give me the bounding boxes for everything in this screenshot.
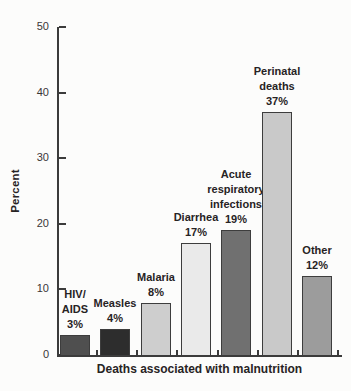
x-tick-mark-5 (257, 350, 259, 355)
y-tick-label-10: 10 (0, 282, 49, 295)
bar-label-acute-respiratory-infections: Acuterespiratoryinfections19% (207, 167, 264, 227)
bar-label-perinatal-deaths: Perinataldeaths37% (254, 64, 300, 109)
bar-label-other: Other12% (302, 243, 331, 273)
bar-label-line: 37% (254, 94, 300, 109)
bar-perinatal-deaths (262, 112, 292, 355)
bar-hiv-aids (60, 335, 90, 355)
y-tick-label-40: 40 (0, 86, 49, 99)
bar-diarrhea (181, 243, 211, 355)
x-tick-mark-2 (136, 350, 138, 355)
y-axis-title: Percent (9, 169, 21, 213)
y-tick-label-20: 20 (0, 217, 49, 230)
y-tick-mark-30 (59, 157, 66, 159)
bar-label-line: infections (207, 197, 264, 212)
y-tick-mark-50 (59, 26, 66, 28)
x-tick-mark-6 (297, 350, 299, 355)
bar-measles (100, 329, 130, 355)
bar-label-line: Malaria (137, 270, 175, 285)
bar-label-line: 17% (174, 225, 219, 240)
bar-label-measles: Measles4% (94, 296, 137, 326)
y-tick-label-50: 50 (0, 20, 49, 33)
bar-label-line: 8% (137, 285, 175, 300)
bar-other (302, 276, 332, 355)
bar-label-line: 4% (94, 311, 137, 326)
bar-label-line: AIDS (62, 302, 88, 317)
bar-label-line: Acute (207, 167, 264, 182)
x-tick-mark-1 (96, 350, 98, 355)
bar-label-line: respiratory (207, 182, 264, 197)
bar-acute-respiratory-infections (221, 230, 251, 355)
y-tick-mark-40 (59, 92, 66, 94)
bar-label-line: Perinatal (254, 64, 300, 79)
bar-label-line: 3% (62, 317, 88, 332)
bar-malaria (141, 303, 171, 355)
x-axis-title: Deaths associated with malnutrition (57, 362, 342, 376)
x-tick-mark-3 (176, 350, 178, 355)
bar-label-line: Measles (94, 296, 137, 311)
plot-area: HIV/AIDS3%Measles4%Malaria8%Diarrhea17%A… (57, 27, 342, 357)
x-tick-mark-7 (337, 350, 339, 355)
bar-label-line: HIV/ (62, 287, 88, 302)
y-tick-label-0: 0 (0, 348, 49, 361)
bar-label-malaria: Malaria8% (137, 270, 175, 300)
bar-label-line: deaths (254, 79, 300, 94)
bar-label-hiv-aids: HIV/AIDS3% (62, 287, 88, 332)
bar-label-line: 19% (207, 212, 264, 227)
bar-label-line: Other (302, 243, 331, 258)
y-tick-label-30: 30 (0, 151, 49, 164)
y-tick-mark-20 (59, 223, 66, 225)
bar-label-line: 12% (302, 258, 331, 273)
x-tick-mark-4 (217, 350, 219, 355)
bar-chart: Percent HIV/AIDS3%Measles4%Malaria8%Diar… (0, 0, 351, 391)
